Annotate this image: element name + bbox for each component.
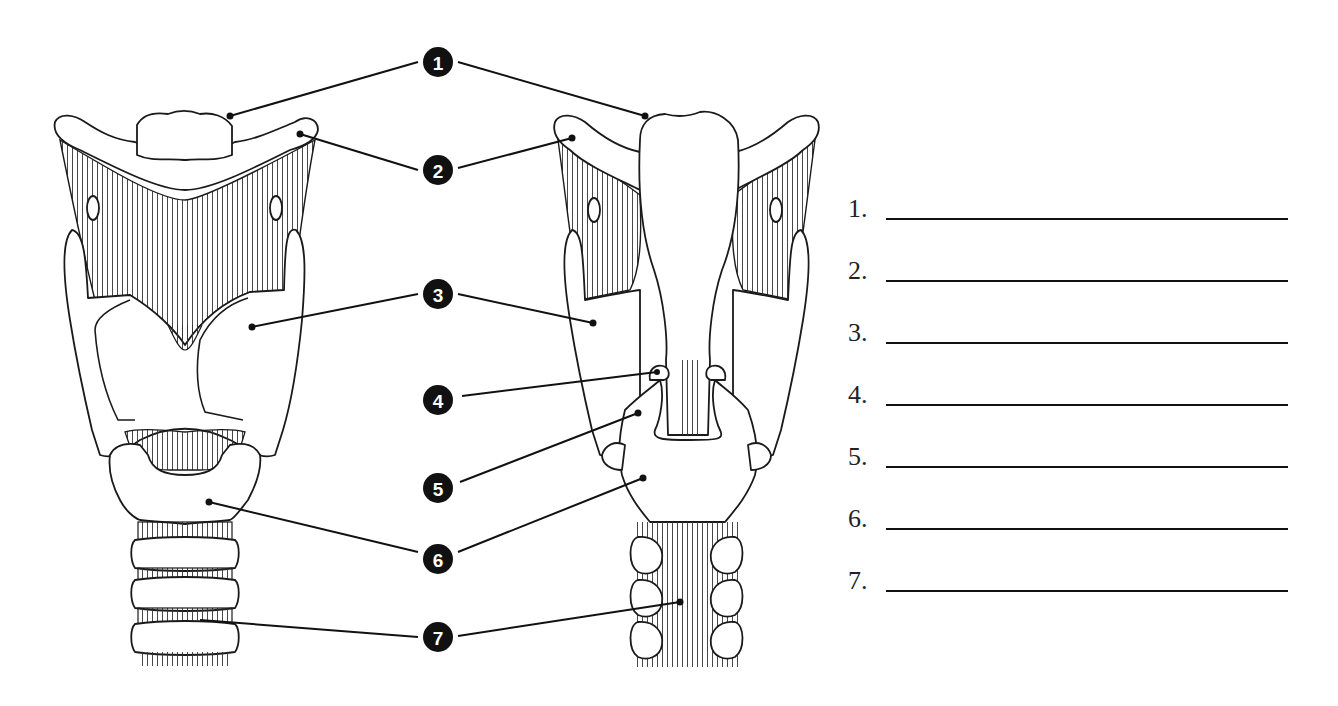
svg-text:2: 2 xyxy=(433,161,444,182)
answer-sheet: 1. 2. 3. 4. 5. 6. 7. xyxy=(848,160,1288,594)
svg-text:6: 6 xyxy=(433,550,444,571)
answer-label: 5. xyxy=(848,444,886,470)
answer-label: 6. xyxy=(848,506,886,532)
svg-text:4: 4 xyxy=(433,391,444,412)
svg-text:1: 1 xyxy=(433,53,444,74)
answer-blank-4[interactable] xyxy=(886,404,1288,406)
answer-row-5: 5. xyxy=(848,408,1288,470)
foramen-left xyxy=(87,196,99,220)
answer-row-3: 3. xyxy=(848,284,1288,346)
epiglottis-stalk-hatch xyxy=(680,360,700,435)
callout-badge-1: 1 xyxy=(423,47,453,77)
answer-blank-7[interactable] xyxy=(886,590,1288,592)
callout-badge-4: 4 xyxy=(423,385,453,415)
answer-label: 4. xyxy=(848,382,886,408)
anterior-view xyxy=(55,111,318,666)
answer-blank-1[interactable] xyxy=(886,218,1288,220)
callout-badge-7: 7 xyxy=(423,622,453,652)
answer-row-2: 2. xyxy=(848,222,1288,284)
svg-text:5: 5 xyxy=(433,479,444,500)
answer-label: 7. xyxy=(848,568,886,594)
answer-blank-2[interactable] xyxy=(886,280,1288,282)
svg-text:7: 7 xyxy=(433,628,444,649)
corniculate-right xyxy=(706,366,725,380)
epiglottis-tip xyxy=(137,111,232,160)
answer-blank-5[interactable] xyxy=(886,466,1288,468)
posterior-view xyxy=(554,112,819,667)
foramen-right-posterior xyxy=(770,198,782,222)
answer-row-6: 6. xyxy=(848,470,1288,532)
answer-label: 2. xyxy=(848,258,886,284)
svg-text:3: 3 xyxy=(433,285,444,306)
answer-row-4: 4. xyxy=(848,346,1288,408)
callout-badge-3: 3 xyxy=(423,279,453,309)
answer-row-7: 7. xyxy=(848,532,1288,594)
answer-label: 3. xyxy=(848,320,886,346)
foramen-left-posterior xyxy=(588,198,600,222)
answer-row-1: 1. xyxy=(848,160,1288,222)
answer-label: 1. xyxy=(848,196,886,222)
callout-badge-5: 5 xyxy=(423,473,453,503)
answer-blank-6[interactable] xyxy=(886,528,1288,530)
callout-badge-2: 2 xyxy=(423,155,453,185)
inferior-horn-left xyxy=(602,443,625,470)
foramen-right xyxy=(270,196,282,220)
trachea-posterior xyxy=(631,522,743,667)
callout-badge-6: 6 xyxy=(423,544,453,574)
inferior-horn-right xyxy=(748,443,771,470)
trachea-anterior xyxy=(131,522,239,666)
answer-blank-3[interactable] xyxy=(886,342,1288,344)
